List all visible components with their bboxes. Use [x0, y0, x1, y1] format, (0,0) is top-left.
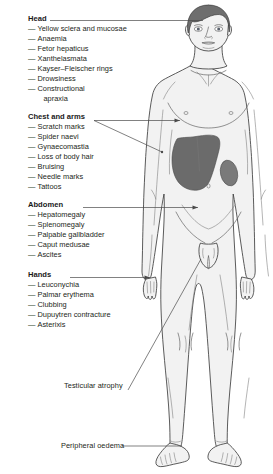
list-item: —Ascites — [28, 250, 104, 260]
list-item: —Loss of body hair — [28, 152, 94, 162]
body-outline — [142, 5, 255, 467]
list-item-label: Palpable gallbladder — [38, 230, 105, 239]
list-item: —Caput medusae — [28, 240, 104, 250]
group-abdomen-heading: Abdomen — [28, 200, 104, 210]
list-item-label: Spider naevi — [38, 132, 79, 141]
left-foot — [156, 443, 189, 467]
list-item-label: Constructional — [38, 84, 85, 93]
list-item-label: Caput medusae — [38, 240, 90, 249]
dash-marker: — — [28, 250, 35, 260]
dash-marker: — — [28, 280, 35, 290]
list-item-label: Yellow sclera and mucosae — [38, 24, 127, 33]
list-item-label: Scratch marks — [38, 122, 85, 131]
group-hands: Hands —Leuconychia —Palmar erythema —Clu… — [28, 270, 111, 330]
dash-marker: — — [28, 310, 35, 320]
dash-marker: — — [28, 220, 35, 230]
list-item: —Anaemia — [28, 34, 127, 44]
list-item-label: Asterixis — [38, 320, 66, 329]
list-item-label: Palmar erythema — [38, 290, 94, 299]
right-foot — [208, 443, 241, 467]
list-item: —Palmar erythema — [28, 290, 111, 300]
list-item: —Clubbing — [28, 300, 111, 310]
list-item: —Spider naevi — [28, 132, 94, 142]
group-head-list: —Yellow sclera and mucosae —Anaemia —Fet… — [28, 24, 127, 104]
list-item: —Hepatomegaly — [28, 210, 104, 220]
right-iris — [217, 28, 220, 31]
dash-marker: — — [28, 290, 35, 300]
dash-marker: — — [28, 300, 35, 310]
group-head: Head —Yellow sclera and mucosae —Anaemia… — [28, 14, 127, 104]
callout-testicular-atrophy: Testicular atrophy — [64, 381, 123, 391]
left-iris — [197, 28, 200, 31]
list-item: —Xanthelasmata — [28, 54, 127, 64]
group-chest-and-arms-heading: Chest and arms — [28, 112, 94, 122]
dash-marker: — — [28, 172, 35, 182]
list-item-label: Kayser–Fleischer rings — [38, 64, 113, 73]
list-item: —Kayser–Fleischer rings — [28, 64, 127, 74]
list-item: —Yellow sclera and mucosae — [28, 24, 127, 34]
dash-marker: — — [28, 84, 35, 94]
dash-marker: — — [28, 230, 35, 240]
list-item: —Constructional — [28, 84, 127, 94]
list-item-label: Drowsiness — [38, 74, 76, 83]
list-item-label: Loss of body hair — [38, 152, 94, 161]
list-item-label: Clubbing — [38, 300, 67, 309]
list-item: —Fetor hepaticus — [28, 44, 127, 54]
list-item-label: Leuconychia — [38, 280, 80, 289]
dash-marker: — — [28, 34, 35, 44]
dash-marker: — — [28, 320, 35, 330]
list-item: —Leuconychia — [28, 280, 111, 290]
dash-marker: — — [28, 162, 35, 172]
list-item-label: Gynaecomastia — [38, 142, 89, 151]
list-item-label: Anaemia — [38, 34, 67, 43]
dash-marker: — — [28, 54, 35, 64]
list-item: —Gynaecomastia — [28, 142, 94, 152]
dash-marker: — — [28, 122, 35, 132]
leader-chest-dot — [161, 151, 163, 153]
dash-marker: — — [28, 152, 35, 162]
left-hand — [143, 277, 157, 299]
list-item: —Scratch marks — [28, 122, 94, 132]
list-item: —Palpable gallbladder — [28, 230, 104, 240]
dash-marker: — — [28, 44, 35, 54]
list-item-label: Dupuytren contracture — [38, 310, 111, 319]
list-item-label: Fetor hepaticus — [38, 44, 89, 53]
group-abdomen-list: —Hepatomegaly —Splenomegaly —Palpable ga… — [28, 210, 104, 260]
dash-marker: — — [28, 210, 35, 220]
callout-peripheral-oedema: Peripheral oedema — [61, 441, 124, 451]
list-item: —Drowsiness — [28, 74, 127, 84]
list-item: —Dupuytren contracture — [28, 310, 111, 320]
list-item-label: Bruising — [38, 162, 65, 171]
right-hand — [240, 277, 254, 299]
list-item: —Bruising — [28, 162, 94, 172]
list-item: —Asterixis — [28, 320, 111, 330]
group-hands-list: —Leuconychia —Palmar erythema —Clubbing … — [28, 280, 111, 330]
list-item: —Needle marks — [28, 172, 94, 182]
list-item-label: apraxia — [44, 94, 68, 103]
group-hands-heading: Hands — [28, 270, 111, 280]
list-item-label: Xanthelasmata — [38, 54, 87, 63]
dash-marker: — — [28, 24, 35, 34]
dash-marker: — — [28, 240, 35, 250]
dash-marker: — — [28, 74, 35, 84]
dash-marker: — — [28, 64, 35, 74]
group-chest-and-arms-list: —Scratch marks —Spider naevi —Gynaecomas… — [28, 122, 94, 192]
list-item: —Tattoos — [28, 182, 94, 192]
list-item-continuation: apraxia — [28, 94, 127, 104]
group-head-heading: Head — [28, 14, 127, 24]
dash-marker: — — [28, 142, 35, 152]
dash-marker: — — [28, 182, 35, 192]
list-item-label: Ascites — [38, 250, 62, 259]
list-item-label: Needle marks — [38, 172, 84, 181]
group-chest-and-arms: Chest and arms —Scratch marks —Spider na… — [28, 112, 94, 192]
group-abdomen: Abdomen —Hepatomegaly —Splenomegaly —Pal… — [28, 200, 104, 260]
list-item-label: Tattoos — [38, 182, 62, 191]
list-item: —Splenomegaly — [28, 220, 104, 230]
dash-marker: — — [28, 132, 35, 142]
list-item-label: Hepatomegaly — [38, 210, 86, 219]
list-item-label: Splenomegaly — [38, 220, 85, 229]
